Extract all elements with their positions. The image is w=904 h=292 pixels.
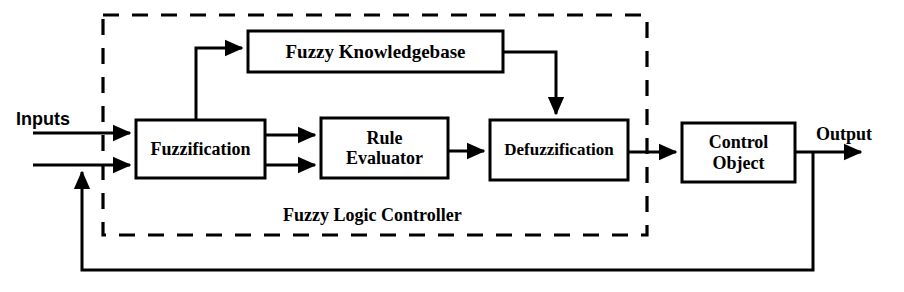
fuzzy-logic-controller-label: Fuzzy Logic Controller: [283, 205, 462, 226]
inputs-label: Inputs: [16, 109, 70, 130]
diagram-canvas: Fuzzy Knowledgebase Fuzzification Rule E…: [0, 0, 904, 292]
knowledgebase-to-defuzzification-arrow: [503, 52, 556, 114]
output-label: Output: [816, 124, 872, 145]
rule-evaluator-box: [321, 118, 448, 178]
fuzzification-to-knowledgebase-arrow: [196, 48, 242, 120]
fuzzy-knowledgebase-box: [248, 31, 503, 72]
fuzzification-box: [136, 120, 265, 178]
block-diagram-svg: [0, 0, 904, 292]
control-object-box: [682, 123, 795, 182]
defuzzification-box: [490, 120, 628, 180]
